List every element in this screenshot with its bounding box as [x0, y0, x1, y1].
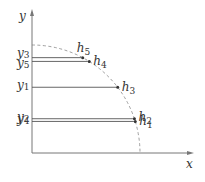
point-h5: h5y3: [16, 41, 90, 60]
dot-h2: [133, 117, 136, 120]
point-label-h2: h2: [138, 110, 151, 126]
x-axis-arrow-icon: [187, 151, 194, 155]
diagram: y x h1y4h2y2h3y1h4y5h5y3: [0, 0, 205, 182]
y-label-h3: y1: [16, 78, 30, 92]
dot-h1: [134, 120, 137, 123]
y-label-h5: y3: [16, 46, 30, 60]
y-label-h2: y2: [16, 110, 30, 124]
point-h3: h3y1: [16, 78, 135, 96]
y-axis-arrow-icon: [30, 9, 34, 16]
point-h2: h2y2: [16, 110, 152, 126]
x-axis: [32, 151, 194, 155]
point-h4: h4y5: [16, 54, 107, 70]
y-axis-label: y: [18, 9, 26, 23]
x-axis-label: x: [186, 157, 193, 171]
y-axis: [30, 9, 34, 153]
point-label-h4: h4: [93, 54, 107, 70]
dot-h3: [116, 86, 119, 89]
dot-h4: [88, 60, 91, 63]
point-label-h3: h3: [122, 80, 136, 96]
point-h1: h1y4: [16, 112, 153, 130]
points-layer: h1y4h2y2h3y1h4y5h5y3: [16, 41, 153, 131]
point-label-h5: h5: [77, 41, 91, 57]
